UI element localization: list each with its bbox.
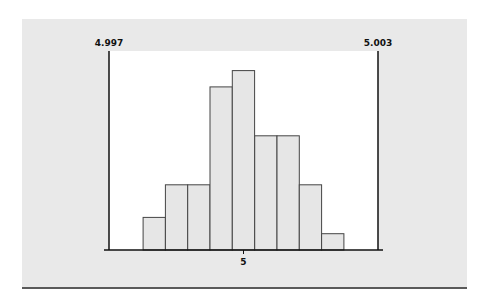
histogram-bar: [232, 71, 254, 250]
histogram-bar: [165, 185, 187, 250]
x-tick-label: 4.997: [95, 38, 123, 48]
histogram-bar: [210, 87, 232, 250]
histogram-bar: [143, 217, 165, 250]
histogram-bar: [188, 185, 210, 250]
x-tick-label: 5.003: [364, 38, 392, 48]
histogram-bar: [255, 136, 277, 250]
histogram-bar: [277, 136, 299, 250]
histogram-bar: [322, 234, 344, 250]
x-tick-label: 5: [240, 257, 246, 267]
histogram-bar: [299, 185, 321, 250]
histogram-chart: 4.99755.003: [0, 0, 494, 307]
